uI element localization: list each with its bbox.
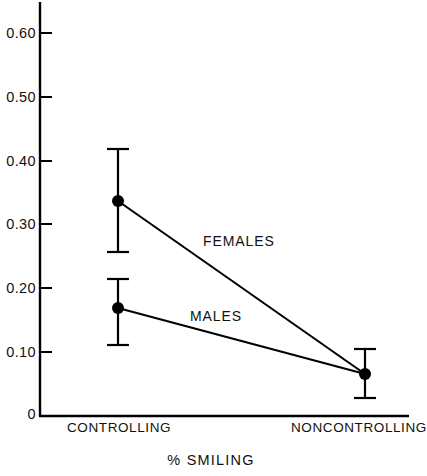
y-axis-ticks bbox=[40, 33, 52, 352]
data-point-noncontrolling bbox=[359, 368, 371, 380]
x-category-label-noncontrolling: NONCONTROLLING bbox=[291, 420, 427, 435]
y-tick-label-0.40: 0.40 bbox=[0, 153, 36, 169]
y-tick-label-0.20: 0.20 bbox=[0, 280, 36, 296]
series-annotation-females: FEMALES bbox=[203, 233, 275, 249]
x-axis-caption: % SMILING bbox=[0, 452, 422, 468]
x-category-label-controlling: CONTROLLING bbox=[67, 420, 171, 435]
y-tick-label-0: 0 bbox=[0, 406, 36, 422]
data-point-males-controlling bbox=[112, 302, 124, 314]
data-point-females-controlling bbox=[112, 195, 124, 207]
y-tick-label-0.60: 0.60 bbox=[0, 25, 36, 41]
series-line-females bbox=[118, 201, 365, 374]
series-annotation-males: MALES bbox=[190, 308, 242, 324]
y-tick-label-0.50: 0.50 bbox=[0, 89, 36, 105]
y-tick-label-0.10: 0.10 bbox=[0, 344, 36, 360]
y-tick-label-0.30: 0.30 bbox=[0, 216, 36, 232]
